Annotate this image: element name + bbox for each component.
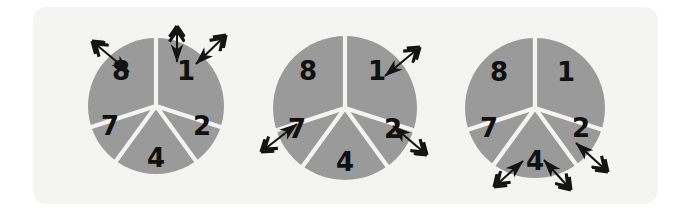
sector-label-8: 8 [490,57,508,87]
figure-canvas: 8 1 2 4 7 8 [0,0,692,211]
sector-label-4: 4 [147,143,165,173]
sector-label-8: 8 [299,56,317,86]
pie-disc-3: 8 1 2 4 7 [440,10,650,202]
sector-label-4: 4 [526,146,544,176]
pie-disc-3-svg: 8 1 2 4 7 [440,10,650,202]
sector-label-4: 4 [336,147,354,177]
sector-label-1: 1 [177,56,195,86]
sector-label-7: 7 [101,111,119,141]
arrow-to-sector-1-b [196,35,226,64]
pie-disc-2-svg: 8 1 2 4 7 [250,10,450,202]
pie-disc-1: 8 1 2 4 7 [60,10,260,202]
sector-label-7: 7 [480,113,498,143]
pie-disc-2: 8 1 2 4 7 [250,10,450,202]
sector-label-2: 2 [384,114,402,144]
pie-disc-1-svg: 8 1 2 4 7 [60,10,260,202]
sector-label-1: 1 [557,57,575,87]
sector-label-2: 2 [572,113,590,143]
sector-label-1: 1 [368,56,386,86]
sector-label-2: 2 [193,111,211,141]
